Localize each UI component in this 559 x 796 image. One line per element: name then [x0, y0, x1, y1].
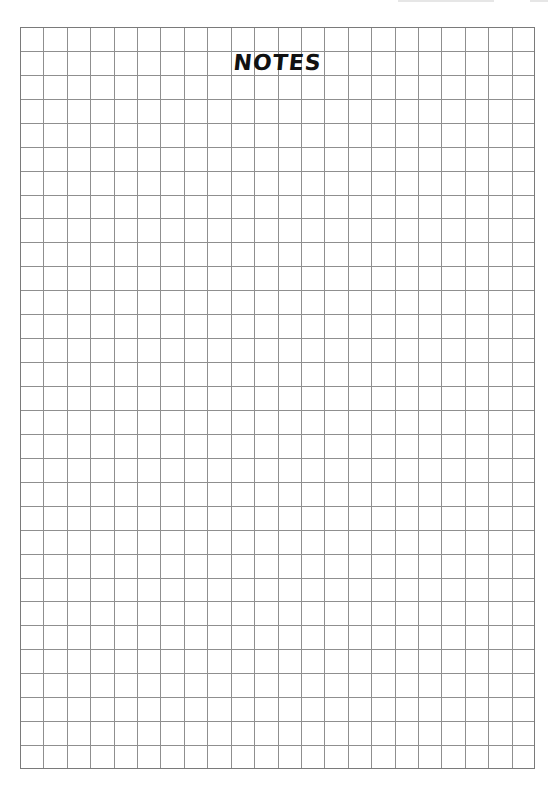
grid-lines	[20, 27, 535, 769]
cropped-header-text	[398, 0, 548, 3]
header-text-fragment	[398, 0, 494, 2]
page-title: NOTES	[19, 51, 537, 75]
page-number-fragment	[530, 0, 548, 2]
notes-grid: NOTES	[20, 27, 535, 769]
